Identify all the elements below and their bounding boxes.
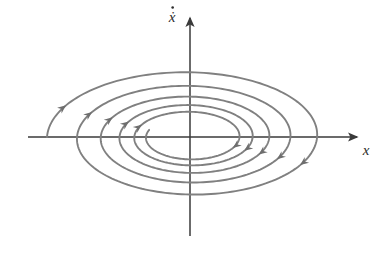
spiral-trajectory [47,72,317,194]
x-dot-diacritic [171,6,174,9]
x-axis-label-text: x [362,142,370,158]
x-dot-axis-label-text: ẋ [168,9,176,25]
axes-group [28,18,357,236]
x-axis-label: x [362,142,370,158]
x-dot-axis-label: ẋ [168,6,176,25]
phase-portrait-figure: x ẋ [0,0,380,254]
trajectories-group [47,72,317,194]
